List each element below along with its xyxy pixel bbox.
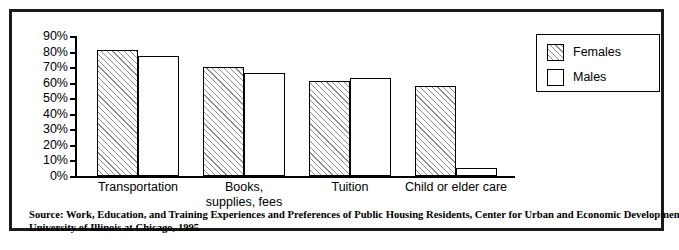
bar-group	[415, 36, 497, 176]
bar-females	[203, 67, 244, 176]
plot-area	[75, 36, 515, 178]
bar-females	[415, 86, 456, 176]
category-label-line: supplies, fees	[169, 195, 319, 210]
y-axis-labels: 90%80%70%60%50%40%30%20%10%0%	[20, 36, 68, 178]
source-note-line-2: University of Illinois at Chicago, 1995	[29, 221, 649, 234]
legend-label: Males	[573, 70, 606, 84]
bar-group	[309, 36, 391, 176]
y-axis-tick-mark	[70, 145, 77, 147]
y-axis-tick-mark	[70, 160, 77, 162]
y-axis-tick-label: 40%	[24, 108, 68, 120]
x-axis-category-label: Child or elder care	[381, 180, 531, 195]
y-axis-tick-mark	[70, 98, 77, 100]
y-axis-tick-mark	[70, 129, 77, 131]
chart-figure: 90%80%70%60%50%40%30%20%10%0% Transporta…	[0, 0, 679, 250]
bar-group	[97, 36, 179, 176]
bar-males	[456, 168, 497, 176]
y-axis-tick-label: 10%	[24, 154, 68, 166]
chart-legend: FemalesMales	[536, 34, 660, 92]
legend-swatch-females	[547, 44, 564, 61]
y-axis-tick-mark	[70, 176, 77, 178]
y-axis-tick-mark	[70, 52, 77, 54]
y-axis-tick-mark	[70, 36, 77, 38]
figure-border: 90%80%70%60%50%40%30%20%10%0% Transporta…	[9, 9, 664, 231]
legend-label: Females	[573, 45, 621, 59]
y-axis-tick-label: 20%	[24, 139, 68, 151]
bar-females	[97, 50, 138, 176]
source-note: Source: Work, Education, and Training Ex…	[29, 208, 649, 234]
y-axis-tick-label: 60%	[24, 77, 68, 89]
bar-males	[138, 56, 179, 176]
y-axis-tick-label: 70%	[24, 61, 68, 73]
source-note-line-1: Source: Work, Education, and Training Ex…	[29, 208, 649, 221]
y-axis-tick-mark	[70, 114, 77, 116]
y-axis-tick-mark	[70, 67, 77, 69]
y-axis-tick-label: 30%	[24, 123, 68, 135]
bar-males	[244, 73, 285, 176]
y-axis-tick-label: 0%	[24, 170, 68, 182]
bar-males	[350, 78, 391, 176]
bar-group	[203, 36, 285, 176]
legend-swatch-males	[547, 69, 564, 86]
y-axis-tick-label: 50%	[24, 92, 68, 104]
y-axis-tick-label: 80%	[24, 46, 68, 58]
x-axis-line	[75, 176, 515, 178]
y-axis-tick-label: 90%	[24, 30, 68, 42]
bar-females	[309, 81, 350, 176]
y-axis-tick-mark	[70, 83, 77, 85]
y-axis-line	[75, 36, 77, 178]
category-label-line: Child or elder care	[381, 180, 531, 195]
